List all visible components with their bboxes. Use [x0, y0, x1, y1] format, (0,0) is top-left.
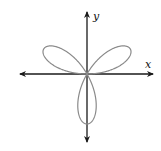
- x-axis-label: x: [145, 58, 152, 71]
- y-axis-label: y: [92, 10, 100, 23]
- rose-curve-plot: x y: [0, 0, 161, 151]
